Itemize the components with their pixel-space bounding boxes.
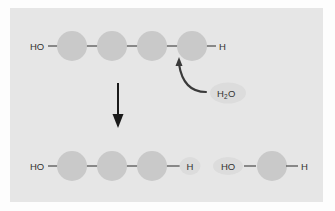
- reaction-arrow-head: [113, 114, 124, 128]
- monomer-circle: [137, 151, 167, 181]
- product-left-h-label: H: [187, 161, 194, 172]
- attack-arrow-path: [179, 64, 206, 92]
- product-right-h-label: H: [301, 161, 308, 172]
- polymer-left-label: HO: [30, 41, 44, 52]
- monomer-circle: [97, 151, 127, 181]
- monomer-circle: [137, 31, 167, 61]
- hydrolysis-diagram: HO H H 2 O HO: [0, 0, 335, 211]
- water-formula-h: H: [217, 88, 224, 99]
- figure-canvas: HO H H 2 O HO: [0, 0, 335, 211]
- monomer-circle: [177, 31, 207, 61]
- monomer-circle: [97, 31, 127, 61]
- polymer-right-label: H: [219, 41, 226, 52]
- product-right: HO H: [213, 151, 308, 181]
- water-molecule: H 2 O: [210, 83, 246, 104]
- product-right-ho-label: HO: [221, 161, 235, 172]
- product-left-ho-label: HO: [30, 161, 44, 172]
- polymer-chain: HO H: [30, 31, 226, 61]
- product-left: HO H: [30, 151, 201, 181]
- attack-arrow-head: [176, 57, 183, 66]
- attack-arrow: [176, 57, 207, 92]
- monomer-circle: [57, 151, 87, 181]
- monomer-circle: [57, 31, 87, 61]
- monomer-circle: [257, 151, 287, 181]
- reaction-direction-arrow: [113, 83, 124, 128]
- water-formula-o: O: [228, 88, 235, 99]
